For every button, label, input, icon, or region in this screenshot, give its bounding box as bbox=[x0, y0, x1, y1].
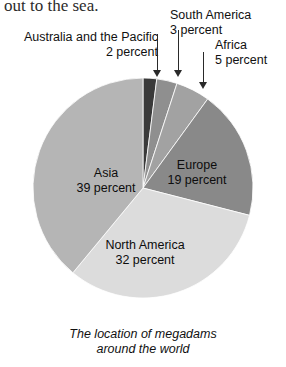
figure-page: out to the sea. Australia and the Pacifi… bbox=[0, 0, 286, 367]
caption-line2: around the world bbox=[0, 342, 286, 357]
pie-chart: Asia 39 percent Europe 19 percent North … bbox=[33, 78, 253, 298]
down-arrow-icon-south-america bbox=[174, 30, 183, 78]
pie-label-europe: Europe 19 percent bbox=[151, 158, 243, 188]
callout-africa: Africa 5 percent bbox=[215, 38, 285, 67]
caption-line1: The location of megadams bbox=[69, 327, 216, 341]
callout-label-line2: 3 percent bbox=[170, 23, 282, 38]
pie-label-line1: North America bbox=[79, 238, 211, 253]
pie-label-line2: 39 percent bbox=[51, 181, 161, 196]
pie-label-north-america: North America 32 percent bbox=[79, 238, 211, 268]
callout-south-america: South America 3 percent bbox=[170, 8, 282, 37]
callout-label-line1: Africa bbox=[215, 38, 285, 53]
pie-label-line1: Asia bbox=[51, 166, 161, 181]
callout-label-line2: 5 percent bbox=[215, 53, 285, 68]
pie-label-line1: Europe bbox=[151, 158, 243, 173]
pie-label-line2: 19 percent bbox=[151, 173, 243, 188]
callout-label-line2: 2 percent bbox=[6, 45, 158, 60]
callout-australia-and-the-pacific: Australia and the Pacific 2 percent bbox=[6, 30, 158, 59]
down-arrow-icon-australia bbox=[153, 34, 162, 78]
pie-label-asia: Asia 39 percent bbox=[51, 166, 161, 196]
callout-label-line1: South America bbox=[170, 8, 282, 23]
figure-caption: The location of megadams around the worl… bbox=[0, 327, 286, 357]
pie-label-line2: 32 percent bbox=[79, 253, 211, 268]
clipped-body-text: out to the sea. bbox=[4, 0, 98, 16]
callout-label-line1: Australia and the Pacific bbox=[6, 30, 158, 45]
